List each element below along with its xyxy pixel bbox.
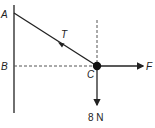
label-c: C [87, 69, 95, 80]
force-diagram: A B C T F 8 N [0, 0, 155, 128]
tension-arrow-icon [58, 42, 65, 47]
label-f: F [146, 61, 153, 72]
label-a: A [0, 9, 8, 20]
label-weight: 8 N [88, 112, 104, 123]
label-t: T [61, 29, 68, 40]
label-b: B [1, 61, 8, 72]
string-ac [14, 13, 97, 66]
